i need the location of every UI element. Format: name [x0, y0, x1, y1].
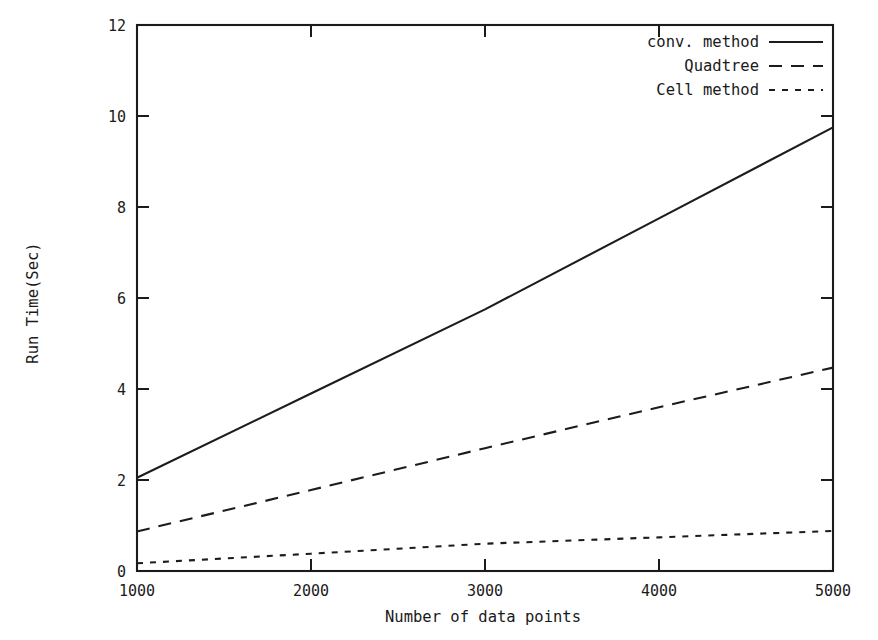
x-tick-label-4000: 4000	[641, 582, 677, 600]
series-line-conv-method	[137, 127, 833, 477]
series-line-cell-method	[137, 531, 833, 563]
line-chart: 12 10 8 6 4 2 0 1000 2000 3000 4000 5000…	[0, 0, 878, 640]
y-axis-title: Run Time(Sec)	[24, 242, 42, 363]
y-tick-label-10: 10	[108, 108, 126, 126]
chart-page: 12 10 8 6 4 2 0 1000 2000 3000 4000 5000…	[0, 0, 878, 640]
legend-label-cell-method: Cell method	[656, 81, 759, 99]
x-axis-title: Number of data points	[385, 608, 581, 626]
y-tick-label-6: 6	[117, 290, 126, 308]
y-axis-ticks	[137, 25, 833, 571]
legend-label-conv-method: conv. method	[647, 33, 759, 51]
y-tick-label-0: 0	[117, 563, 126, 581]
x-tick-label-3000: 3000	[467, 582, 503, 600]
series-line-quadtree	[137, 368, 833, 532]
x-tick-label-1000: 1000	[119, 582, 155, 600]
series-group	[137, 127, 833, 563]
y-tick-label-4: 4	[117, 381, 126, 399]
legend-label-quadtree: Quadtree	[684, 57, 759, 75]
x-tick-label-2000: 2000	[293, 582, 329, 600]
legend: conv. method Quadtree Cell method	[647, 33, 823, 99]
y-tick-label-2: 2	[117, 472, 126, 490]
x-tick-label-5000: 5000	[815, 582, 851, 600]
plot-frame	[137, 25, 833, 571]
y-tick-label-8: 8	[117, 199, 126, 217]
x-axis-ticks	[137, 25, 833, 571]
y-tick-label-12: 12	[108, 17, 126, 35]
